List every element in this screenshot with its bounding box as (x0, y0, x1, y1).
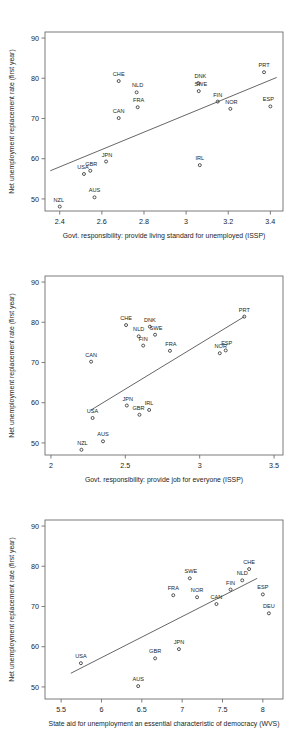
data-point-label: CAN (85, 352, 97, 358)
plot-frame (45, 32, 283, 211)
y-tick-label: 60 (31, 642, 39, 651)
data-point-label: FIN (226, 580, 235, 586)
data-point-marker (241, 579, 244, 582)
scatter-panel-3: 50607080905.566.577.58AUSUSAGBRJPNDEUCAN… (0, 488, 294, 732)
x-axis-title: State aid for unemployment an essential … (49, 720, 280, 728)
data-point-marker (154, 657, 157, 660)
data-point-label: PRT (258, 62, 270, 68)
y-axis-title: Net unemployment replacement rate (first… (8, 49, 16, 193)
plot-frame (45, 520, 283, 699)
data-point-label: CAN (113, 108, 125, 114)
data-point-marker (243, 315, 246, 318)
data-point-label: CHE (243, 559, 255, 565)
data-point-marker (93, 196, 96, 199)
x-tick-label: 3.2 (223, 217, 233, 226)
data-point-marker (269, 105, 272, 108)
x-tick-label: 3 (198, 461, 202, 470)
data-point-label: DNK (194, 73, 206, 79)
data-point-marker (138, 413, 141, 416)
data-point-marker (80, 448, 83, 451)
y-tick-label: 70 (31, 114, 39, 123)
data-point-marker (89, 169, 92, 172)
data-point-marker (168, 349, 171, 352)
data-point-label: NZL (77, 440, 88, 446)
data-point-label: IRL (195, 155, 204, 161)
regression-line (50, 77, 276, 170)
data-point-label: CHE (113, 71, 125, 77)
data-point-label: JPN (174, 639, 185, 645)
data-point-marker (224, 349, 227, 352)
data-point-marker (82, 172, 85, 175)
data-point-marker (177, 648, 180, 651)
data-point-marker (79, 662, 82, 665)
data-point-label: CHE (120, 315, 132, 321)
data-point-label: FIN (213, 92, 222, 98)
data-point-label: NLD (132, 82, 143, 88)
y-tick-label: 90 (31, 522, 39, 531)
x-tick-label: 2.8 (139, 217, 149, 226)
data-point-marker (90, 360, 93, 363)
data-point-label: ESP (263, 96, 274, 102)
x-tick-label: 3.5 (269, 461, 279, 470)
y-tick-label: 60 (31, 154, 39, 163)
scatter-plot-3: 50607080905.566.577.58AUSUSAGBRJPNDEUCAN… (0, 488, 294, 733)
data-point-marker (125, 324, 128, 327)
data-point-label: SWE (150, 325, 163, 331)
data-point-label: PRT (239, 307, 251, 313)
data-point-label: JPN (102, 152, 113, 158)
y-tick-label: 70 (31, 602, 39, 611)
data-point-marker (215, 603, 218, 606)
data-point-marker (148, 408, 151, 411)
x-tick-label: 5.5 (56, 705, 66, 714)
figure-page: 50607080902.42.62.833.23.4NZLAUSUSAGBRJP… (0, 0, 294, 733)
scatter-panel-2: 506070809022.533.5NZLAUSUSAGBRIRLJPNCANN… (0, 244, 294, 488)
scatter-panel-1: 50607080902.42.62.833.23.4NZLAUSUSAGBRJP… (0, 0, 294, 244)
data-point-marker (117, 117, 120, 120)
data-point-label: USA (75, 653, 87, 659)
y-tick-label: 80 (31, 562, 39, 571)
data-point-label: JPN (123, 396, 134, 402)
data-point-label: FRA (133, 97, 144, 103)
data-point-label: GBR (132, 405, 144, 411)
data-point-label: NOR (225, 99, 237, 105)
data-point-label: GBR (149, 648, 161, 654)
data-point-marker (105, 160, 108, 163)
data-point-marker (117, 80, 120, 83)
data-point-label: AUS (89, 187, 101, 193)
y-tick-label: 80 (31, 74, 39, 83)
x-tick-label: 2.4 (55, 217, 65, 226)
regression-line (71, 578, 257, 673)
x-tick-label: 3 (184, 217, 188, 226)
data-point-label: SWE (194, 81, 207, 87)
data-point-label: FRA (165, 341, 176, 347)
regression-line (91, 317, 244, 410)
data-point-marker (248, 568, 251, 571)
data-point-marker (198, 164, 201, 167)
scatter-plot-1: 50607080902.42.62.833.23.4NZLAUSUSAGBRJP… (0, 0, 294, 244)
data-point-label: ESP (221, 340, 232, 346)
y-tick-label: 50 (31, 439, 39, 448)
data-point-label: SWE (184, 568, 197, 574)
data-point-marker (197, 90, 200, 93)
data-point-marker (218, 352, 221, 355)
y-tick-label: 70 (31, 358, 39, 367)
data-point-marker (154, 333, 157, 336)
y-tick-label: 50 (31, 683, 39, 692)
data-point-label: DEU (263, 603, 275, 609)
x-tick-label: 6.5 (137, 705, 147, 714)
y-tick-label: 80 (31, 318, 39, 327)
y-tick-label: 90 (31, 278, 39, 287)
data-point-label: DNK (144, 317, 156, 323)
x-tick-label: 8 (261, 705, 265, 714)
data-point-marker (188, 577, 191, 580)
x-tick-label: 2 (49, 461, 53, 470)
x-tick-label: 3.4 (265, 217, 275, 226)
data-point-marker (267, 612, 270, 615)
x-tick-label: 2.6 (97, 217, 107, 226)
data-point-label: NLD (237, 570, 248, 576)
data-point-label: AUS (97, 431, 109, 437)
data-point-label: ESP (257, 584, 268, 590)
x-axis-title: Govt. responsibility: provide job for ev… (85, 476, 243, 484)
data-point-label: IRL (145, 400, 154, 406)
data-point-marker (172, 594, 175, 597)
